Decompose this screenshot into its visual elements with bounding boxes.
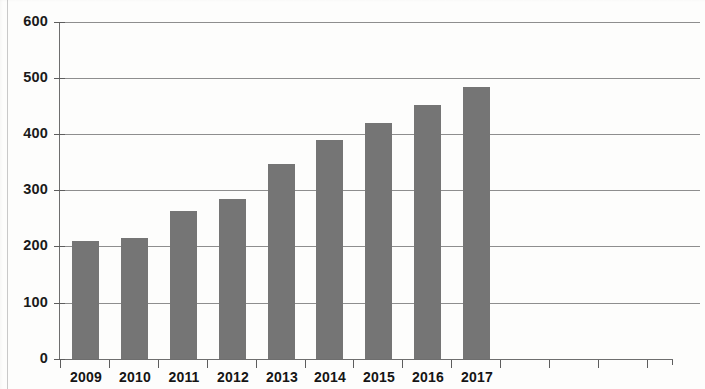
- y-axis-label-100: 100: [0, 294, 48, 310]
- bar-2015: [365, 123, 392, 359]
- y-tick-100: [54, 303, 65, 304]
- y-tick-200: [54, 246, 65, 247]
- bar-2011: [170, 211, 197, 359]
- x-tick-1: [109, 360, 110, 368]
- y-tick-600: [54, 22, 65, 23]
- scan-noise-overlay: [0, 0, 705, 389]
- y-tick-300: [54, 190, 65, 191]
- bar-2014: [316, 140, 343, 359]
- y-axis-label-600: 600: [0, 13, 48, 29]
- x-tick-3: [207, 360, 208, 368]
- y-tick-500: [54, 78, 65, 79]
- x-tick-5: [305, 360, 306, 368]
- x-tick-extra-4: [672, 360, 673, 365]
- x-axis-label-2017: 2017: [446, 369, 508, 385]
- y-tick-400: [54, 134, 65, 135]
- y-axis-label-400: 400: [0, 125, 48, 141]
- x-tick-extra-2: [598, 360, 599, 368]
- bar-2009: [72, 241, 99, 359]
- x-tick-8: [451, 360, 452, 368]
- bar-2016: [414, 105, 441, 359]
- y-axis-label-500: 500: [0, 69, 48, 85]
- y-axis-label-300: 300: [0, 181, 48, 197]
- x-tick-0: [60, 360, 61, 368]
- x-tick-9: [500, 360, 501, 368]
- x-tick-7: [402, 360, 403, 368]
- bar-2010: [121, 238, 148, 359]
- gridline-500: [59, 78, 700, 79]
- y-axis-label-200: 200: [0, 237, 48, 253]
- x-tick-4: [256, 360, 257, 368]
- y-axis-label-0: 0: [0, 350, 48, 366]
- bar-2017: [463, 87, 490, 359]
- bar-2013: [268, 164, 295, 359]
- x-tick-2: [158, 360, 159, 368]
- gridline-600: [59, 22, 700, 23]
- x-tick-6: [353, 360, 354, 368]
- axis-baseline: [59, 359, 673, 360]
- x-tick-extra-3: [647, 360, 648, 368]
- y-axis-line: [59, 22, 60, 360]
- bar-2012: [219, 199, 246, 359]
- bar-chart: 600 500 400 300 200 100 0 2009 2010 2011…: [0, 0, 705, 389]
- x-tick-extra-1: [549, 360, 550, 368]
